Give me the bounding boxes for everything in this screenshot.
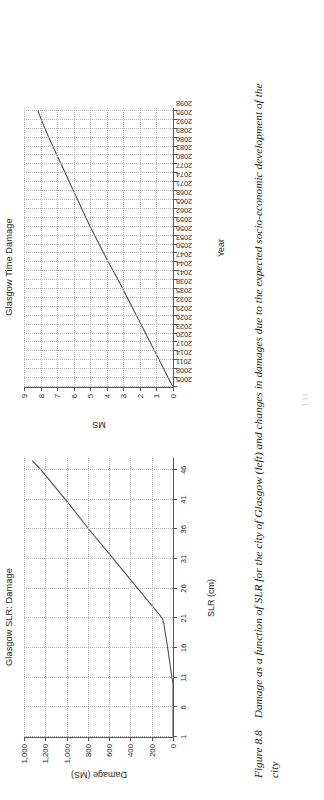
x-tick-label: 2077 <box>176 161 192 170</box>
gridline-vertical <box>24 324 173 325</box>
y-tick-label: 8 <box>36 394 45 398</box>
x-tick <box>173 288 177 289</box>
gridline-vertical <box>24 315 173 316</box>
gridline-horizontal <box>24 458 25 737</box>
gridline-vertical <box>24 377 173 378</box>
gridline-vertical <box>24 110 173 111</box>
x-tick <box>173 333 177 334</box>
gridline-vertical <box>24 137 173 138</box>
chart-panel-time-damage: Glasgow Time Damage 20052008201120142017… <box>4 102 240 432</box>
gridline-vertical <box>24 528 173 529</box>
y-tick <box>173 737 174 741</box>
y-axis-title-damage: Damage (MS) <box>71 770 127 780</box>
gridline-vertical <box>24 190 173 191</box>
x-tick-label: 6 <box>179 705 188 709</box>
gridline-vertical <box>24 341 173 342</box>
y-tick-label: 800 <box>83 744 92 757</box>
x-tick-label: 2083 <box>176 144 192 153</box>
x-tick <box>173 261 177 262</box>
y-tick-label: 7 <box>53 394 62 398</box>
gridline-horizontal <box>107 108 108 387</box>
gridline-vertical <box>24 235 173 236</box>
figure-panels: Glasgow SLR: Damage 16111621263136414602… <box>0 0 244 800</box>
gridline-vertical <box>24 386 173 387</box>
gridline-horizontal <box>156 108 157 387</box>
y-tick-label: 1,000 <box>62 744 71 764</box>
y-tick-label: 4 <box>102 394 111 398</box>
x-tick-label: 2038 <box>176 277 192 286</box>
x-tick <box>173 252 177 253</box>
y-tick <box>41 387 42 391</box>
y-tick-label: 400 <box>126 744 135 757</box>
x-tick-label: 2074 <box>176 170 192 179</box>
x-tick <box>173 677 177 678</box>
x-tick-label: 2071 <box>176 179 192 188</box>
x-tick <box>173 190 177 191</box>
x-tick <box>173 469 177 470</box>
gridline-vertical <box>24 270 173 271</box>
gridline-vertical <box>24 128 173 129</box>
x-tick <box>173 270 177 271</box>
y-tick <box>156 387 157 391</box>
y-tick-label: 2 <box>135 394 144 398</box>
gridline-vertical <box>24 359 173 360</box>
x-tick-label: 2050 <box>176 241 192 250</box>
x-tick-label: 2086 <box>176 135 192 144</box>
gridline-horizontal <box>41 108 42 387</box>
gridline-vertical <box>24 261 173 262</box>
x-tick <box>173 499 177 500</box>
x-tick-label: 2062 <box>176 206 192 215</box>
gridline-horizontal <box>90 108 91 387</box>
y-tick <box>107 387 108 391</box>
gridline-horizontal <box>130 458 131 737</box>
x-tick-label: 2065 <box>176 197 192 206</box>
y-axis-title-ms: MS <box>92 420 106 430</box>
gridline-horizontal <box>24 108 25 387</box>
gridline-vertical <box>24 181 173 182</box>
x-tick-label: 31 <box>179 555 188 563</box>
x-tick-label: 2023 <box>176 322 192 331</box>
gridline-vertical <box>24 155 173 156</box>
rotated-page: Glasgow SLR: Damage 16111621263136414602… <box>0 0 324 800</box>
x-tick <box>173 617 177 618</box>
x-tick <box>173 647 177 648</box>
gridline-horizontal <box>74 108 75 387</box>
gridline-vertical <box>24 647 173 648</box>
gridline-vertical <box>24 469 173 470</box>
gridline-horizontal <box>152 458 153 737</box>
y-tick <box>24 737 25 741</box>
y-tick-label: 1,000 <box>20 744 29 764</box>
x-tick-label: 1 <box>179 735 188 739</box>
x-tick-label: 16 <box>179 644 188 652</box>
x-tick <box>173 306 177 307</box>
gridline-horizontal <box>140 108 141 387</box>
x-tick <box>173 558 177 559</box>
x-tick-label: 2092 <box>176 117 192 126</box>
x-tick-label: 2017 <box>176 339 192 348</box>
gridline-vertical <box>24 279 173 280</box>
gridline-vertical <box>24 350 173 351</box>
y-tick-label: 1 <box>152 394 161 398</box>
gridline-vertical <box>24 119 173 120</box>
x-axis-title-year: Year <box>216 108 226 388</box>
x-tick <box>173 137 177 138</box>
gridline-horizontal <box>109 458 110 737</box>
plot-area-time-damage: 2005200820112014201720202023202620292032… <box>24 108 174 388</box>
x-tick-label: 2059 <box>176 215 192 224</box>
gridline-vertical <box>24 333 173 334</box>
x-tick <box>173 341 177 342</box>
gridline-vertical <box>24 199 173 200</box>
x-tick-label: 2005 <box>176 375 192 384</box>
gridline-vertical <box>24 588 173 589</box>
y-tick-label: 600 <box>105 744 114 757</box>
y-tick <box>109 737 110 741</box>
y-tick <box>67 737 68 741</box>
x-tick-label: 2008 <box>176 366 192 375</box>
x-tick <box>173 315 177 316</box>
x-tick <box>173 128 177 129</box>
gridline-vertical <box>24 617 173 618</box>
x-tick-label: 2032 <box>176 295 192 304</box>
x-tick-label: 2056 <box>176 224 192 233</box>
x-tick-label: 46 <box>179 466 188 474</box>
x-tick-label: 26 <box>179 584 188 592</box>
